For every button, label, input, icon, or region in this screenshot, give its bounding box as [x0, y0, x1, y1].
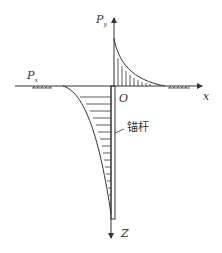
anchor-leader-line — [115, 129, 124, 133]
x-axis-label: x — [203, 91, 209, 102]
z-axis-label: Z — [121, 228, 129, 239]
anchor-rod-label: 锚杆 — [127, 122, 149, 133]
px-label: Px — [27, 70, 38, 83]
origin-label: O — [119, 93, 128, 104]
px-hatch — [80, 97, 111, 195]
anchor-rod — [111, 86, 115, 219]
py-label: Py — [96, 14, 107, 27]
anchor-pressure-diagram — [0, 0, 222, 253]
px-curve — [63, 86, 111, 214]
